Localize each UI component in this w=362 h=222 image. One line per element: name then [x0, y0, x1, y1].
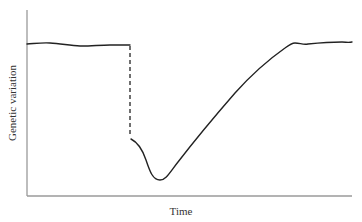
x-axis-label: Time [170, 205, 193, 217]
pre-bottleneck-line [27, 43, 130, 46]
recovery-line [131, 42, 352, 180]
genetic-variation-chart: Time Genetic variation [0, 0, 362, 222]
y-axis-label: Genetic variation [6, 64, 18, 141]
